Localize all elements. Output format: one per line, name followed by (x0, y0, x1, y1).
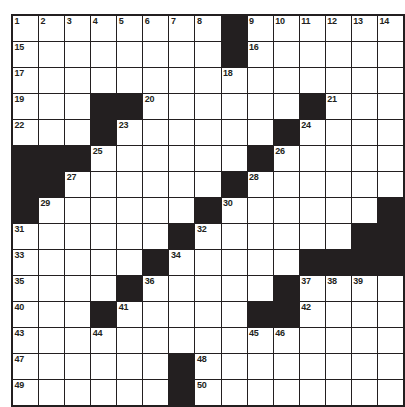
crossword-cell[interactable] (325, 302, 351, 328)
crossword-cell[interactable] (299, 380, 325, 407)
crossword-cell[interactable]: 8 (195, 15, 221, 42)
crossword-cell[interactable] (195, 328, 221, 354)
crossword-cell[interactable] (65, 68, 91, 94)
crossword-cell[interactable] (143, 224, 169, 250)
crossword-cell[interactable] (65, 250, 91, 276)
crossword-cell[interactable] (221, 146, 247, 172)
crossword-cell[interactable] (377, 120, 404, 146)
crossword-cell[interactable] (65, 276, 91, 302)
crossword-cell[interactable] (273, 198, 299, 224)
crossword-cell[interactable]: 15 (12, 42, 39, 68)
crossword-cell[interactable] (91, 250, 117, 276)
crossword-cell[interactable] (169, 146, 195, 172)
crossword-cell[interactable] (143, 146, 169, 172)
crossword-cell[interactable]: 19 (12, 94, 39, 120)
crossword-cell[interactable] (325, 328, 351, 354)
crossword-cell[interactable] (91, 198, 117, 224)
crossword-cell[interactable]: 22 (12, 120, 39, 146)
crossword-cell[interactable] (65, 354, 91, 380)
crossword-cell[interactable] (169, 42, 195, 68)
crossword-cell[interactable] (169, 302, 195, 328)
crossword-cell[interactable] (221, 328, 247, 354)
crossword-cell[interactable] (117, 42, 143, 68)
crossword-cell[interactable] (65, 120, 91, 146)
crossword-cell[interactable] (39, 276, 65, 302)
crossword-cell[interactable] (325, 354, 351, 380)
crossword-cell[interactable]: 21 (325, 94, 351, 120)
crossword-cell[interactable]: 41 (117, 302, 143, 328)
crossword-cell[interactable]: 20 (143, 94, 169, 120)
crossword-cell[interactable] (325, 42, 351, 68)
crossword-cell[interactable] (377, 94, 404, 120)
crossword-cell[interactable]: 1 (12, 15, 39, 42)
crossword-cell[interactable] (273, 68, 299, 94)
crossword-cell[interactable] (117, 224, 143, 250)
crossword-cell[interactable] (39, 42, 65, 68)
crossword-cell[interactable]: 6 (143, 15, 169, 42)
crossword-cell[interactable]: 14 (377, 15, 404, 42)
crossword-cell[interactable] (247, 276, 273, 302)
crossword-cell[interactable]: 47 (12, 354, 39, 380)
crossword-cell[interactable] (65, 328, 91, 354)
crossword-cell[interactable] (195, 250, 221, 276)
crossword-cell[interactable]: 43 (12, 328, 39, 354)
crossword-cell[interactable] (117, 68, 143, 94)
crossword-cell[interactable] (91, 68, 117, 94)
crossword-cell[interactable] (351, 380, 377, 407)
crossword-cell[interactable] (299, 68, 325, 94)
crossword-cell[interactable] (351, 172, 377, 198)
crossword-cell[interactable]: 26 (273, 146, 299, 172)
crossword-cell[interactable] (39, 224, 65, 250)
crossword-cell[interactable] (117, 198, 143, 224)
crossword-cell[interactable]: 11 (299, 15, 325, 42)
crossword-cell[interactable] (117, 328, 143, 354)
crossword-cell[interactable] (299, 146, 325, 172)
crossword-cell[interactable] (143, 198, 169, 224)
crossword-cell[interactable]: 18 (221, 68, 247, 94)
crossword-cell[interactable] (169, 328, 195, 354)
crossword-cell[interactable] (221, 354, 247, 380)
crossword-cell[interactable] (351, 328, 377, 354)
crossword-cell[interactable] (351, 94, 377, 120)
crossword-cell[interactable] (247, 68, 273, 94)
crossword-cell[interactable] (65, 380, 91, 407)
crossword-cell[interactable] (117, 380, 143, 407)
crossword-cell[interactable] (195, 146, 221, 172)
crossword-cell[interactable] (117, 146, 143, 172)
crossword-cell[interactable] (377, 380, 404, 407)
crossword-cell[interactable] (299, 42, 325, 68)
crossword-cell[interactable] (195, 120, 221, 146)
crossword-cell[interactable]: 3 (65, 15, 91, 42)
crossword-cell[interactable]: 48 (195, 354, 221, 380)
crossword-cell[interactable]: 2 (39, 15, 65, 42)
crossword-cell[interactable] (351, 302, 377, 328)
crossword-cell[interactable]: 30 (221, 198, 247, 224)
crossword-cell[interactable] (299, 172, 325, 198)
crossword-cell[interactable] (221, 120, 247, 146)
crossword-cell[interactable] (91, 354, 117, 380)
crossword-cell[interactable] (247, 198, 273, 224)
crossword-cell[interactable] (143, 172, 169, 198)
crossword-cell[interactable]: 23 (117, 120, 143, 146)
crossword-cell[interactable] (221, 276, 247, 302)
crossword-cell[interactable]: 34 (169, 250, 195, 276)
crossword-cell[interactable] (273, 172, 299, 198)
crossword-cell[interactable] (39, 68, 65, 94)
crossword-cell[interactable] (143, 328, 169, 354)
crossword-cell[interactable] (143, 354, 169, 380)
crossword-cell[interactable] (377, 42, 404, 68)
crossword-cell[interactable]: 9 (247, 15, 273, 42)
crossword-cell[interactable]: 27 (65, 172, 91, 198)
crossword-cell[interactable]: 13 (351, 15, 377, 42)
crossword-cell[interactable] (39, 302, 65, 328)
crossword-cell[interactable] (351, 354, 377, 380)
crossword-cell[interactable]: 16 (247, 42, 273, 68)
crossword-cell[interactable] (247, 94, 273, 120)
crossword-cell[interactable] (195, 94, 221, 120)
crossword-cell[interactable] (65, 94, 91, 120)
crossword-cell[interactable] (325, 380, 351, 407)
crossword-cell[interactable] (325, 68, 351, 94)
crossword-cell[interactable] (195, 172, 221, 198)
crossword-cell[interactable]: 17 (12, 68, 39, 94)
crossword-cell[interactable]: 4 (91, 15, 117, 42)
